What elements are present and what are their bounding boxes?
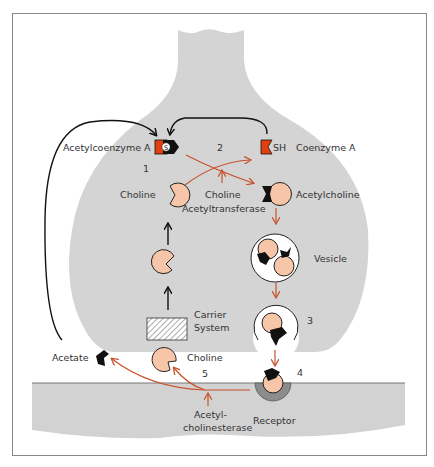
- label-acetylcholinesterase-2: cholinesterase: [183, 422, 252, 433]
- step-2: 2: [217, 142, 223, 153]
- label-acetate: Acetate: [52, 352, 89, 363]
- vesicle: [251, 234, 299, 282]
- label-coenzyme-a: Coenzyme A: [296, 142, 356, 153]
- step-5: 5: [202, 368, 208, 379]
- label-acetylcoenzyme-a: Acetylcoenzyme A: [63, 142, 151, 153]
- step-1: 1: [143, 163, 149, 174]
- step-4: 4: [297, 367, 303, 378]
- label-acetylcholinesterase-1: Acetyl-: [194, 409, 227, 420]
- step-3: 3: [307, 315, 313, 326]
- label-receptor: Receptor: [253, 415, 296, 426]
- label-choline-acetyltransferase-1: Choline: [205, 189, 241, 200]
- carrier-system: [147, 318, 187, 340]
- label-choline-top: Choline: [120, 189, 156, 200]
- label-choline-acetyltransferase-2: Acetyltransferase: [182, 203, 266, 214]
- acetylcoenzyme-a-molecule: S: [155, 140, 179, 154]
- label-choline-cleft: Choline: [187, 352, 223, 363]
- label-carrier: Carrier: [194, 309, 227, 320]
- label-sh: SH: [273, 142, 286, 153]
- label-system: System: [194, 322, 229, 333]
- svg-text:S: S: [164, 144, 168, 152]
- acetylcholine-synapse-diagram: S Acetylcoenzyme A SH Coenzyme A 2 1 Cho…: [0, 0, 434, 467]
- label-vesicle: Vesicle: [314, 253, 347, 264]
- label-acetylcholine: Acetylcholine: [296, 189, 360, 200]
